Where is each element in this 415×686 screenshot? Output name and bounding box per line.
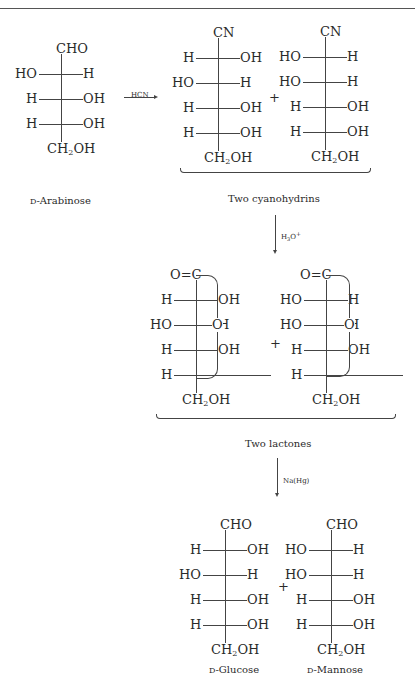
left-substituent: H <box>161 343 172 357</box>
left-substituent: H <box>190 593 201 607</box>
left-substituent: H <box>183 126 194 140</box>
lactones-brace <box>156 414 396 419</box>
left-substituent: H <box>296 593 307 607</box>
right-substituent: OH <box>347 100 369 114</box>
left-substituent: H <box>291 343 302 357</box>
right-substituent: OH <box>348 343 370 357</box>
right-substituent: OH <box>247 543 269 557</box>
left-substituent: H <box>290 100 301 114</box>
bond <box>174 375 271 376</box>
arrowhead-icon <box>273 250 277 254</box>
left-substituent: H <box>26 117 37 131</box>
bond <box>309 550 353 551</box>
left-substituent: H <box>296 618 307 632</box>
bond <box>39 74 83 75</box>
right-substituent: OH <box>240 101 262 115</box>
right-substituent: H <box>247 568 258 582</box>
top-group: CHO <box>326 518 358 532</box>
left-substituent: HO <box>179 568 201 582</box>
right-substituent: OH <box>218 293 240 307</box>
bottom-group: CH2OH <box>182 393 230 407</box>
right-substituent: H <box>347 75 358 89</box>
reaction-arrow-reduction <box>277 458 278 494</box>
mannose-label: D-Mannose <box>307 663 363 678</box>
bottom-group: CH2OH <box>211 643 259 657</box>
left-substituent: H <box>183 101 194 115</box>
bond <box>303 132 347 133</box>
plus-sign: + <box>278 580 289 594</box>
arrowhead-icon <box>275 493 279 497</box>
bond <box>203 575 247 576</box>
bond <box>303 107 347 108</box>
carbon-backbone <box>331 530 332 643</box>
right-substituent: OH <box>353 593 375 607</box>
bond <box>203 625 247 626</box>
arrowhead-icon <box>154 95 158 99</box>
right-substituent: H <box>353 543 364 557</box>
right-substituent: OH <box>83 92 105 106</box>
left-substituent: HO <box>279 50 301 64</box>
left-substituent: H <box>291 368 302 382</box>
right-substituent: OH <box>247 593 269 607</box>
left-substituent: H <box>190 543 201 557</box>
bond <box>203 550 247 551</box>
carbon-backbone <box>61 54 62 142</box>
bond <box>309 575 353 576</box>
right-substituent: OH <box>240 51 262 65</box>
reagent-h3o: H3O+ <box>281 230 301 244</box>
top-group: CN <box>213 26 234 40</box>
left-substituent: HO <box>150 318 172 332</box>
bond <box>309 600 353 601</box>
left-substituent: H <box>190 618 201 632</box>
bond <box>309 625 353 626</box>
right-substituent: OH <box>353 618 375 632</box>
top-rule <box>0 8 415 9</box>
right-substituent: H <box>83 67 94 81</box>
carbon-backbone <box>325 37 326 150</box>
right-substituent: H <box>240 76 251 90</box>
left-substituent: HO <box>280 318 302 332</box>
reagent-nahg: Na(Hg) <box>283 474 309 488</box>
glucose-label: D-Glucose <box>209 663 259 678</box>
bond <box>203 600 247 601</box>
bond <box>304 375 403 376</box>
bond <box>39 124 83 125</box>
ring-oxygen-b: O <box>344 318 355 332</box>
left-substituent: HO <box>280 293 302 307</box>
reagent-hcn: HCN <box>131 88 149 102</box>
left-substituent: HO <box>172 76 194 90</box>
bond <box>39 99 83 100</box>
bond <box>196 58 240 59</box>
cyanohydrins-brace <box>180 168 371 173</box>
bond <box>303 82 347 83</box>
left-substituent: H <box>290 125 301 139</box>
bottom-group: CH2OH <box>311 150 359 164</box>
right-substituent: H <box>353 568 364 582</box>
right-substituent: OH <box>347 125 369 139</box>
right-substituent: OH <box>240 126 262 140</box>
bond <box>196 133 240 134</box>
right-substituent: OH <box>247 618 269 632</box>
bond <box>303 57 347 58</box>
left-substituent: H <box>26 92 37 106</box>
left-substituent: H <box>161 293 172 307</box>
right-substituent: OH <box>83 117 105 131</box>
left-substituent: HO <box>15 67 37 81</box>
lactones-label: Two lactones <box>245 437 311 451</box>
plus-sign: + <box>269 91 280 105</box>
carbon-backbone <box>225 530 226 643</box>
bottom-group: CH2OH <box>312 393 360 407</box>
bond <box>196 83 240 84</box>
bond <box>196 108 240 109</box>
bottom-group: CH2OH <box>204 151 252 165</box>
right-substituent: H <box>347 50 358 64</box>
top-group: CHO <box>56 42 88 56</box>
ring-oxygen-a: O <box>212 318 223 332</box>
arabinose-label: D-Arabinose <box>30 194 91 209</box>
reaction-arrow-hydrolysis <box>275 215 276 251</box>
cyanohydrins-label: Two cyanohydrins <box>228 192 320 206</box>
bottom-group: CH2OH <box>317 643 365 657</box>
left-substituent: HO <box>285 543 307 557</box>
left-substituent: HO <box>279 75 301 89</box>
bottom-group: CH2OH <box>47 142 95 156</box>
